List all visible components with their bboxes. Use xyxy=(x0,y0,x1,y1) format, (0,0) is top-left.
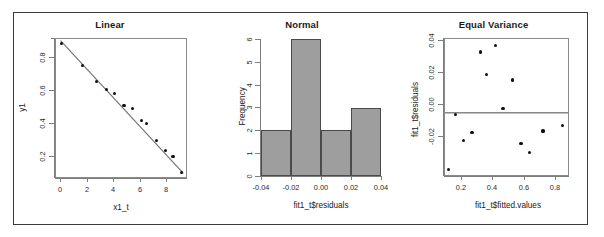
linear-fit-line-svg xyxy=(56,39,188,179)
r-diagnostic-figure: Linear 0.8 0.6 0.4 0.2 0 2 4 xyxy=(0,0,604,237)
x-tick xyxy=(140,178,141,182)
data-point xyxy=(113,92,116,95)
x-tick xyxy=(492,176,493,180)
x-tick-label: 4 xyxy=(103,185,123,194)
x-tick-label: 2 xyxy=(77,185,97,194)
x-tick xyxy=(524,176,525,180)
x-axis-title: fit1_t$residuals xyxy=(251,201,391,210)
x-tick xyxy=(60,178,61,182)
x-tick xyxy=(461,176,462,180)
x-tick xyxy=(166,178,167,182)
x-tick xyxy=(321,176,322,180)
x-tick-label: 0.4 xyxy=(479,183,505,192)
panel-normal: Normal 6 5 4 3 2 1 0 -0.04 xyxy=(206,13,398,226)
y-tick xyxy=(438,72,444,73)
data-point xyxy=(470,131,473,134)
zero-reference-line-svg xyxy=(445,39,570,177)
data-point xyxy=(501,107,504,110)
y-tick-label: 0.2 xyxy=(38,144,47,170)
x-tick-label: 0.04 xyxy=(366,183,396,192)
y-tick-label: 0.8 xyxy=(38,45,47,71)
x-tick xyxy=(555,176,556,180)
y-axis-title: Frequency xyxy=(238,77,247,137)
y-tick xyxy=(49,90,55,91)
x-tick xyxy=(113,178,114,182)
x-tick xyxy=(351,176,352,180)
x-tick xyxy=(261,176,262,180)
x-tick-label: 6 xyxy=(130,185,150,194)
y-tick xyxy=(49,57,55,58)
y-tick xyxy=(255,39,261,40)
y-axis-title: y1 xyxy=(18,88,27,128)
y-tick-label: 0.02 xyxy=(427,59,436,87)
data-point xyxy=(95,80,98,83)
y-tick xyxy=(49,123,55,124)
x-tick-label: 0.6 xyxy=(511,183,537,192)
y-tick-label: -0.02 xyxy=(427,123,436,151)
y-tick xyxy=(438,136,444,137)
panel-normal-plot-area xyxy=(261,39,381,176)
data-point xyxy=(528,151,531,154)
x-axis-line xyxy=(444,176,569,177)
y-tick xyxy=(255,153,261,154)
x-tick xyxy=(87,178,88,182)
panel-equal-variance: Equal Variance 0.04 0.02 0.00 -0.02 0.2 … xyxy=(398,13,589,226)
data-point xyxy=(122,104,125,107)
y-axis-line xyxy=(54,38,55,178)
panel-linear-plot-area xyxy=(55,38,187,178)
y-tick-label: 0.00 xyxy=(427,91,436,119)
data-point xyxy=(447,168,450,171)
x-axis-title: fit1_t$fitted.values xyxy=(438,201,578,210)
x-tick xyxy=(291,176,292,180)
x-tick-label: 0.02 xyxy=(336,183,366,192)
panel-equal-variance-plot-area xyxy=(444,38,569,176)
histogram-bar xyxy=(321,130,351,176)
y-tick xyxy=(255,85,261,86)
x-tick-label: 0 xyxy=(50,185,70,194)
histogram-bar xyxy=(351,108,381,177)
y-tick xyxy=(438,40,444,41)
y-tick xyxy=(255,62,261,63)
y-tick xyxy=(255,130,261,131)
figure-border: Linear 0.8 0.6 0.4 0.2 0 2 4 xyxy=(13,12,588,225)
data-point xyxy=(454,113,457,116)
x-tick-label: -0.02 xyxy=(276,183,306,192)
data-point xyxy=(511,78,514,81)
y-tick xyxy=(49,156,55,157)
y-axis-line xyxy=(443,38,444,176)
x-tick-label: 0.2 xyxy=(448,183,474,192)
panel-linear-title: Linear xyxy=(14,19,206,30)
y-tick-label: 0.4 xyxy=(38,111,47,137)
x-tick-label: -0.04 xyxy=(246,183,276,192)
x-axis-title: x1_t xyxy=(55,203,187,212)
data-point xyxy=(541,129,544,132)
x-tick xyxy=(381,176,382,180)
x-tick-label: 0.8 xyxy=(542,183,568,192)
y-axis-title: fit1_t$residuals xyxy=(411,75,420,145)
x-axis-line xyxy=(55,178,187,179)
x-tick-label: 0.00 xyxy=(306,183,336,192)
histogram-bar xyxy=(291,39,321,176)
y-tick xyxy=(255,107,261,108)
y-tick-label: 5 xyxy=(245,49,254,75)
x-tick-label: 8 xyxy=(156,185,176,194)
histogram-bar xyxy=(261,130,291,176)
panel-linear: Linear 0.8 0.6 0.4 0.2 0 2 4 xyxy=(14,13,206,226)
data-point xyxy=(180,171,183,174)
y-tick-label: 0.6 xyxy=(38,78,47,104)
y-tick xyxy=(438,104,444,105)
panel-normal-title: Normal xyxy=(206,19,398,30)
data-point xyxy=(171,155,174,158)
y-tick-label: 0.04 xyxy=(427,27,436,55)
